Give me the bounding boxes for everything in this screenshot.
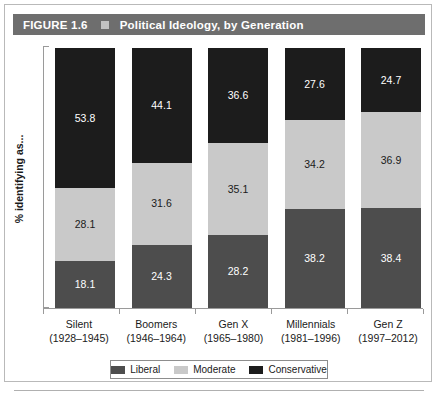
- legend-swatch-icon: [174, 366, 188, 374]
- generation-years: (1965–1980): [197, 331, 271, 345]
- bar-segment-value: 28.1: [75, 219, 95, 230]
- x-axis-label-gen-z: Gen Z(1997–2012): [351, 318, 425, 345]
- chart-plot-area: % identifying as... 53.828.118.144.131.6…: [13, 44, 425, 314]
- legend-label: Moderate: [193, 364, 235, 375]
- bar-segment-value: 44.1: [151, 100, 171, 111]
- bottom-divider-rule: [14, 390, 424, 391]
- generation-name: Gen X: [197, 318, 271, 331]
- bar-segment-value: 24.3: [151, 271, 171, 282]
- legend-item-liberal[interactable]: Liberal: [111, 364, 160, 375]
- bar-segment-liberal: 38.4: [361, 208, 421, 308]
- chart-legend: LiberalModerateConservative: [110, 360, 328, 379]
- legend-swatch-icon: [249, 366, 263, 374]
- figure-title: Political Ideology, by Generation: [120, 19, 304, 31]
- bar-segment-value: 35.1: [228, 184, 248, 195]
- x-axis-category-labels: Silent(1928–1945)Boomers(1946–1964)Gen X…: [13, 318, 425, 345]
- legend-item-conservative[interactable]: Conservative: [249, 364, 326, 375]
- generation-years: (1928–1945): [42, 331, 116, 345]
- bar-segment-liberal: 28.2: [208, 235, 268, 308]
- bar-segment-value: 28.2: [228, 266, 248, 277]
- generation-years: (1981–1996): [274, 331, 348, 345]
- bar-segment-liberal: 24.3: [132, 245, 192, 308]
- stacked-bars-group: 53.828.118.144.131.624.336.635.128.227.6…: [55, 48, 421, 308]
- x-axis-tick: [43, 309, 44, 314]
- legend-swatch-icon: [111, 366, 125, 374]
- x-axis-label-gen-x: Gen X(1965–1980): [197, 318, 271, 345]
- bar-segment-value: 36.9: [381, 155, 401, 166]
- y-axis-label: % identifying as...: [11, 44, 27, 314]
- bar-segment-conservative: 36.6: [208, 48, 268, 143]
- stacked-bar-gen-z: 24.736.938.4: [361, 48, 421, 308]
- y-axis-line: [43, 46, 44, 308]
- bar-segment-moderate: 34.2: [285, 120, 345, 209]
- legend-item-moderate[interactable]: Moderate: [174, 364, 235, 375]
- bar-segment-conservative: 24.7: [361, 48, 421, 112]
- bar-segment-liberal: 18.1: [55, 261, 115, 308]
- bar-segment-value: 36.6: [228, 90, 248, 101]
- x-axis-tick: [423, 309, 424, 314]
- bar-segment-conservative: 44.1: [132, 48, 192, 163]
- generation-name: Gen Z: [351, 318, 425, 331]
- generation-name: Silent: [42, 318, 116, 331]
- figure-number: FIGURE 1.6: [23, 19, 88, 31]
- bar-segment-value: 24.7: [381, 75, 401, 86]
- bar-segment-value: 53.8: [75, 113, 95, 124]
- stacked-bar-millennials: 27.634.238.2: [285, 48, 345, 308]
- x-axis-tick: [195, 309, 196, 314]
- figure-header-bar: FIGURE 1.6 Political Ideology, by Genera…: [13, 14, 425, 35]
- generation-name: Boomers: [119, 318, 193, 331]
- bar-segment-moderate: 31.6: [132, 163, 192, 245]
- bar-segment-value: 27.6: [304, 79, 324, 90]
- x-axis-label-silent: Silent(1928–1945): [42, 318, 116, 345]
- generation-years: (1997–2012): [351, 331, 425, 345]
- x-axis-label-boomers: Boomers(1946–1964): [119, 318, 193, 345]
- x-axis-tick: [347, 309, 348, 314]
- generation-name: Millennials: [274, 318, 348, 331]
- bar-segment-conservative: 27.6: [285, 48, 345, 120]
- bar-segment-moderate: 28.1: [55, 188, 115, 261]
- square-bullet-icon: [101, 21, 109, 29]
- x-axis-tick: [271, 309, 272, 314]
- generation-years: (1946–1964): [119, 331, 193, 345]
- bar-segment-value: 31.6: [151, 198, 171, 209]
- x-axis-ticks: [43, 309, 423, 314]
- x-axis-tick: [119, 309, 120, 314]
- bar-segment-moderate: 35.1: [208, 143, 268, 234]
- legend-label: Liberal: [130, 364, 160, 375]
- stacked-bar-gen-x: 36.635.128.2: [208, 48, 268, 308]
- bar-segment-value: 18.1: [75, 279, 95, 290]
- bar-segment-value: 38.2: [304, 253, 324, 264]
- bar-segment-moderate: 36.9: [361, 112, 421, 208]
- stacked-bar-boomers: 44.131.624.3: [132, 48, 192, 308]
- stacked-bar-silent: 53.828.118.1: [55, 48, 115, 308]
- bar-segment-conservative: 53.8: [55, 48, 115, 188]
- x-axis-label-millennials: Millennials(1981–1996): [274, 318, 348, 345]
- bar-segment-value: 34.2: [304, 159, 324, 170]
- bar-segment-value: 38.4: [381, 253, 401, 264]
- bar-segment-liberal: 38.2: [285, 209, 345, 308]
- legend-label: Conservative: [268, 364, 326, 375]
